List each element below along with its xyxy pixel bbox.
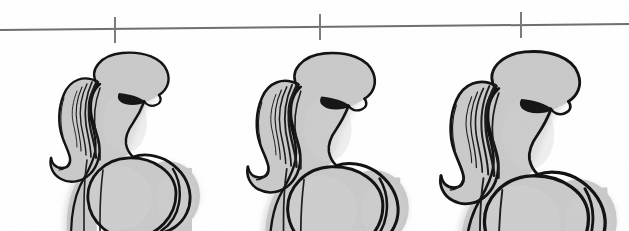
ruler-line xyxy=(0,24,629,30)
figure-2 xyxy=(247,53,408,231)
figure-group xyxy=(50,52,616,231)
measurement-ruler xyxy=(0,12,629,43)
figure-3 xyxy=(440,52,616,231)
illustration-canvas: Body shape progression illustration xyxy=(0,0,629,231)
figure-artwork xyxy=(0,0,629,231)
figure-1 xyxy=(50,53,200,231)
